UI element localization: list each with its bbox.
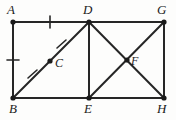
vertex-label-b: B [9,102,17,115]
vertex-label-c: C [55,57,63,69]
vertex-dot-d [86,19,91,24]
vertex-dot-e [86,95,91,100]
vertex-label-h: H [157,102,166,115]
vertex-label-a: A [7,3,15,16]
vertex-dot-c [47,58,52,63]
geometry-figure: ADGCFBEH [0,0,176,120]
segments-layer [13,22,164,98]
vertex-dot-b [10,95,15,100]
vertex-label-e: E [84,102,92,115]
vertex-label-f: F [131,55,138,67]
vertex-label-d: D [83,3,92,16]
vertex-label-g: G [157,3,166,16]
vertex-dot-h [161,95,166,100]
vertex-dot-f [124,57,129,62]
vertex-dot-a [10,19,15,24]
vertex-dot-g [161,19,166,24]
